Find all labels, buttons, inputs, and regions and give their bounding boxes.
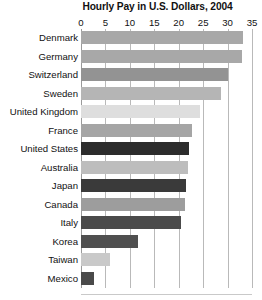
bar-japan (81, 179, 186, 192)
bar-australia (81, 161, 188, 174)
bar-label-canada: Canada (0, 198, 78, 211)
bar-switzerland (81, 68, 228, 81)
axis-bottom-rule (81, 294, 252, 295)
bar-label-australia: Australia (0, 161, 78, 174)
bar-canada (81, 198, 185, 211)
bar-label-sweden: Sweden (0, 87, 78, 100)
bar-korea (81, 235, 138, 248)
bar-label-italy: Italy (0, 216, 78, 229)
bar-label-switzerland: Switzerland (0, 68, 78, 81)
bar-label-korea: Korea (0, 235, 78, 248)
bar-sweden (81, 87, 221, 100)
bar-label-denmark: Denmark (0, 31, 78, 44)
bar-france (81, 124, 192, 137)
bar-united-states (81, 142, 189, 155)
bar-label-germany: Germany (0, 50, 78, 63)
bar-label-japan: Japan (0, 179, 78, 192)
bar-label-united-kingdom: United Kingdom (0, 105, 78, 118)
bar-denmark (81, 31, 243, 44)
bar-taiwan (81, 253, 110, 266)
bar-label-mexico: Mexico (0, 272, 78, 285)
hourly-pay-bar-chart: Hourly Pay in U.S. Dollars, 2004 0510152… (0, 0, 262, 300)
bar-label-taiwan: Taiwan (0, 253, 78, 266)
bar-united-kingdom (81, 105, 200, 118)
bar-label-france: France (0, 124, 78, 137)
bar-label-united-states: United States (0, 142, 78, 155)
bar-mexico (81, 272, 94, 285)
bar-germany (81, 50, 242, 63)
bar-italy (81, 216, 181, 229)
bar-rows: DenmarkGermanySwitzerlandSwedenUnited Ki… (0, 0, 262, 300)
